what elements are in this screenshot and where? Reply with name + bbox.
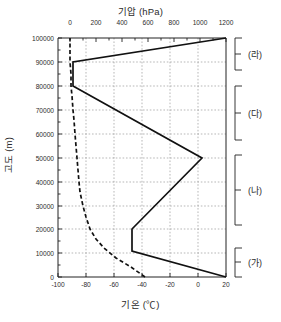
bottom-tick-m100: -100 — [51, 281, 64, 288]
bottom-tick-0: 0 — [196, 281, 200, 288]
layer-brackets — [235, 38, 242, 277]
left-tick-70000: 70000 — [20, 107, 54, 114]
bottom-tick-m20: -20 — [165, 281, 175, 288]
atmosphere-profile-chart: 기압 (hPa) 기온 (℃) 고도 (m) — [0, 0, 281, 322]
left-tick-90000: 90000 — [20, 59, 54, 66]
bottom-tick-m80: -80 — [81, 281, 91, 288]
top-tick-600: 600 — [142, 19, 153, 26]
layer-label-ra: (라) — [248, 48, 262, 61]
top-tick-800: 800 — [168, 19, 179, 26]
layer-label-na: (나) — [248, 184, 262, 197]
top-tick-0: 0 — [68, 19, 72, 26]
left-tick-0: 0 — [20, 274, 54, 281]
bracket-ga — [235, 248, 242, 277]
left-tick-40000: 40000 — [20, 179, 54, 186]
pressure-curve — [70, 38, 145, 277]
layer-label-ga: (가) — [248, 256, 262, 269]
bracket-ra — [235, 38, 242, 70]
left-axis-ticks — [58, 38, 62, 277]
temperature-curve — [73, 38, 226, 277]
left-tick-80000: 80000 — [20, 83, 54, 90]
bottom-tick-m40: -40 — [137, 281, 147, 288]
top-tick-200: 200 — [90, 19, 101, 26]
bracket-da — [235, 86, 242, 140]
bottom-tick-20: 20 — [222, 281, 229, 288]
grid-vertical — [86, 38, 198, 277]
left-tick-10000: 10000 — [20, 250, 54, 257]
left-tick-20000: 20000 — [20, 226, 54, 233]
layer-label-da: (다) — [248, 107, 262, 120]
top-tick-1200: 1200 — [219, 19, 234, 26]
top-tick-1000: 1000 — [193, 19, 208, 26]
left-tick-60000: 60000 — [20, 131, 54, 138]
left-tick-30000: 30000 — [20, 203, 54, 210]
bracket-na — [235, 155, 242, 225]
bottom-tick-m60: -60 — [109, 281, 119, 288]
left-tick-100000: 100000 — [20, 35, 54, 42]
left-tick-50000: 50000 — [20, 155, 54, 162]
top-tick-400: 400 — [116, 19, 127, 26]
